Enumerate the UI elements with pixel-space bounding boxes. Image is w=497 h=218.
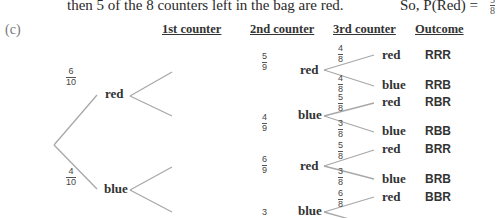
prob-level2-1: 49 <box>262 113 267 133</box>
outcome-2: RBR <box>425 95 451 109</box>
node-level3-blue: blue <box>382 171 406 187</box>
prob-level3-0: 48 <box>338 44 343 64</box>
outcome-5: BRB <box>425 172 451 186</box>
prob-level2-2: 69 <box>262 155 267 175</box>
prob-level3-2: 58 <box>338 93 343 113</box>
node-level3-red: red <box>382 189 401 205</box>
node-level3-red: red <box>382 141 401 157</box>
node-level1-blue: blue <box>104 181 128 197</box>
node-level1-red: red <box>105 86 124 102</box>
node-level2-blue: blue <box>298 203 322 218</box>
prob-level1-blue: 410 <box>66 167 76 187</box>
prob-level2-3: 3 <box>262 208 267 218</box>
outcome-6: BBR <box>425 190 451 204</box>
prob-level3-4: 58 <box>338 141 343 161</box>
outcome-1: RRB <box>425 78 451 92</box>
outcome-0: RRR <box>425 48 451 62</box>
node-level2-red: red <box>300 62 319 78</box>
prob-level3-6: 68 <box>338 189 343 209</box>
node-level2-red: red <box>300 158 319 174</box>
node-level3-blue: blue <box>382 123 406 139</box>
prob-level2-0: 59 <box>262 52 267 72</box>
outcome-3: RBB <box>425 124 451 138</box>
node-level3-red: red <box>382 94 401 110</box>
prob-level1-red: 610 <box>66 67 76 87</box>
node-level3-red: red <box>382 47 401 63</box>
prob-level3-5: 38 <box>338 167 343 187</box>
node-level2-blue: blue <box>298 107 322 123</box>
prob-level3-1: 48 <box>338 74 343 94</box>
node-level3-blue: blue <box>382 77 406 93</box>
outcome-4: BRR <box>425 142 451 156</box>
prob-level3-3: 38 <box>338 119 343 139</box>
